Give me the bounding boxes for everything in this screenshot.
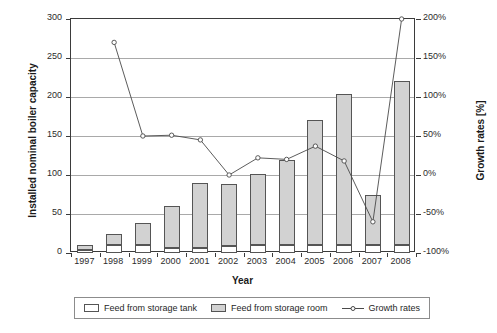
growth-rate-marker <box>256 156 260 160</box>
y-tick-label-right: 150% <box>423 51 446 61</box>
x-tick-label: 1998 <box>99 256 128 266</box>
y-tick-left <box>66 214 71 215</box>
y-tick-right <box>416 97 421 98</box>
y-tick-right <box>416 136 421 137</box>
y-tick-label-left: 200 <box>22 90 62 100</box>
x-tick-label: 2005 <box>300 256 329 266</box>
y-tick-label-right: 200% <box>423 12 446 22</box>
y-tick-left <box>66 136 71 137</box>
line-with-open-circle-marker-icon <box>342 304 364 313</box>
y-tick-label-left: 150 <box>22 129 62 139</box>
y-tick-right <box>416 58 421 59</box>
growth-rate-marker <box>342 159 346 163</box>
x-tick-label: 1999 <box>128 256 157 266</box>
y-tick-left <box>66 97 71 98</box>
y-tick-label-right: -100% <box>423 246 449 256</box>
growth-rate-marker <box>141 134 145 138</box>
y-tick-left <box>66 175 71 176</box>
plot-area <box>70 18 415 252</box>
growth-rate-marker <box>198 138 202 142</box>
legend-item-growth-rates: Growth rates <box>342 303 421 313</box>
x-tick-label: 2007 <box>358 256 387 266</box>
gray-square-swatch-icon <box>211 304 226 312</box>
growth-rate-marker <box>371 220 375 224</box>
y-tick-left <box>66 58 71 59</box>
y-tick-label-left: 300 <box>22 12 62 22</box>
growth-rate-marker <box>227 173 231 177</box>
growth-rate-marker <box>313 144 317 148</box>
chart-figure: Installed nominal boiler capacity [MW] G… <box>0 0 497 333</box>
y-tick-label-right: -50% <box>423 207 444 217</box>
y-tick-label-left: 250 <box>22 51 62 61</box>
legend-label-growth-rates: Growth rates <box>369 303 421 313</box>
y-tick-right <box>416 175 421 176</box>
growth-rate-marker <box>284 157 288 161</box>
x-tick-label: 2004 <box>271 256 300 266</box>
x-tick-label: 2000 <box>156 256 185 266</box>
x-tick-label: 2008 <box>386 256 415 266</box>
y-tick-label-left: 100 <box>22 168 62 178</box>
legend-label-storage-tank: Feed from storage tank <box>104 303 197 313</box>
legend-label-storage-room: Feed from storage room <box>231 303 328 313</box>
y-tick-right <box>416 214 421 215</box>
growth-rate-marker <box>399 17 403 21</box>
y-tick-label-left: 50 <box>22 207 62 217</box>
y-tick-label-right: 50% <box>423 129 441 139</box>
y-axis-title-right: Growth rates [%] <box>475 36 486 246</box>
y-tick-label-left: 0 <box>22 246 62 256</box>
x-tick-label: 2006 <box>329 256 358 266</box>
x-tick-label: 2002 <box>214 256 243 266</box>
x-tick <box>416 253 417 257</box>
chart-legend: Feed from storage tank Feed from storage… <box>74 297 430 319</box>
y-tick-left <box>66 19 71 20</box>
growth-rate-marker <box>112 40 116 44</box>
x-tick-label: 1997 <box>70 256 99 266</box>
x-axis-title: Year <box>70 275 415 286</box>
y-tick-label-right: 0% <box>423 168 436 178</box>
growth-rate-line <box>71 19 416 253</box>
growth-rate-polyline <box>114 19 402 222</box>
white-square-swatch-icon <box>84 304 99 312</box>
x-tick-label: 2003 <box>243 256 272 266</box>
x-tick-label: 2001 <box>185 256 214 266</box>
legend-item-storage-room: Feed from storage room <box>211 303 328 313</box>
growth-rate-marker <box>169 133 173 137</box>
legend-item-storage-tank: Feed from storage tank <box>84 303 197 313</box>
y-tick-label-right: 100% <box>423 90 446 100</box>
y-tick-right <box>416 19 421 20</box>
